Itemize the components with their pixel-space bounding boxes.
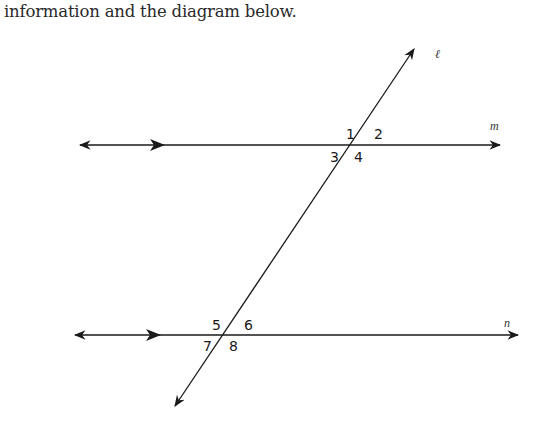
angle-2: 2	[374, 126, 383, 142]
label-n: n	[504, 316, 510, 330]
angle-1: 1	[346, 126, 355, 142]
label-m: m	[490, 119, 499, 133]
line-n	[75, 329, 518, 341]
angle-3: 3	[330, 149, 339, 165]
angle-6: 6	[244, 317, 253, 333]
label-l: ℓ	[435, 47, 440, 61]
angle-7: 7	[203, 338, 212, 354]
angle-5: 5	[212, 317, 221, 333]
line-m	[80, 139, 500, 151]
parallel-lines-diagram: ℓ m n 1 2 3 4 5 6 7 8	[0, 0, 541, 426]
angle-8: 8	[229, 338, 238, 354]
angle-4: 4	[354, 149, 363, 165]
